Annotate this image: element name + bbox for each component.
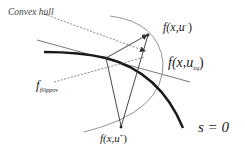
vector-f-minus [106,35,147,58]
convex-hull-segment [121,35,148,127]
convex-hull-label: Convex hull [8,8,54,18]
f-plus-label: f(x,u+) [100,133,127,144]
f-plus-point [120,126,123,129]
f-minus-close: ) [188,20,192,34]
f-eq-args: (x, [172,55,186,70]
f-eq-close: ) [199,55,204,70]
f-plus-args: (x, [103,132,114,144]
f-eq-sub: eq [193,65,199,71]
f-minus-args: (x, [166,20,178,34]
filippov-leader [54,57,145,82]
f-filippov-sub: filippov [40,87,58,93]
f-minus-label: f(x,u−) [163,21,192,33]
f-minus-sup: − [185,22,188,28]
surface-label: s = 0 [198,120,229,135]
f-plus-close: ) [123,132,127,144]
reachable-arc [84,16,163,132]
f-minus-point [147,34,150,37]
f-plus-sup: + [120,133,123,139]
convex-hull-leader [44,14,145,51]
f-minus-u: u [179,20,185,34]
f-eq-label: f(x,ueq) [168,56,204,70]
f-filippov-label: ffilippov [36,78,58,91]
vector-f-plus [106,58,121,126]
